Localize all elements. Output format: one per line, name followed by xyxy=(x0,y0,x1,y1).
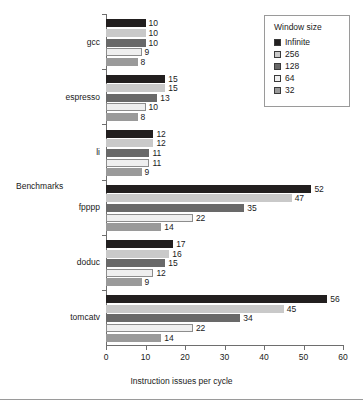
bar-value-label: 14 xyxy=(164,222,173,232)
legend-item[interactable]: Infinite xyxy=(274,36,349,48)
bar-value-label: 9 xyxy=(145,167,150,177)
bar xyxy=(106,204,244,212)
bar xyxy=(106,113,138,121)
bar-value-label: 14 xyxy=(164,333,173,343)
bar-value-label: 22 xyxy=(196,213,205,223)
bar xyxy=(106,259,165,267)
bar xyxy=(106,39,146,47)
category-label: li xyxy=(34,147,100,157)
legend-swatch xyxy=(274,87,281,94)
bar xyxy=(106,168,142,176)
x-axis-tick-label: 30 xyxy=(210,352,240,362)
bar xyxy=(106,48,142,56)
legend-item-label: 128 xyxy=(285,62,299,71)
bar xyxy=(106,295,327,303)
bar xyxy=(106,185,311,193)
x-axis-tick xyxy=(146,346,147,350)
bar-value-label: 10 xyxy=(149,18,158,28)
x-axis-tick-label: 40 xyxy=(249,352,279,362)
bar xyxy=(106,19,146,27)
bar xyxy=(106,94,157,102)
bar xyxy=(106,84,165,92)
bar-value-label: 17 xyxy=(176,239,185,249)
bar-value-label: 12 xyxy=(156,129,165,139)
bar-value-label: 8 xyxy=(141,57,146,67)
bar xyxy=(106,240,173,248)
x-axis-tick xyxy=(185,346,186,350)
legend-items: Infinite2561286432 xyxy=(274,36,349,96)
y-axis-tick xyxy=(102,235,106,236)
bar-value-label: 11 xyxy=(152,158,161,168)
y-axis-tick xyxy=(102,290,106,291)
x-axis-tick xyxy=(304,346,305,350)
bar-value-label: 10 xyxy=(149,102,158,112)
legend-item[interactable]: 256 xyxy=(274,48,349,60)
category-label: espresso xyxy=(34,92,100,102)
legend-swatch xyxy=(274,75,281,82)
y-axis-tick xyxy=(102,14,106,15)
bar xyxy=(106,139,153,147)
legend-item[interactable]: 64 xyxy=(274,72,349,84)
legend: Window size Infinite2561286432 xyxy=(264,15,350,107)
bar-value-label: 45 xyxy=(287,304,296,314)
bar xyxy=(106,214,193,222)
bar xyxy=(106,324,193,332)
bar-value-label: 10 xyxy=(149,38,158,48)
bar xyxy=(106,305,284,313)
bar xyxy=(106,75,165,83)
legend-swatch xyxy=(274,39,281,46)
bar-value-label: 56 xyxy=(330,294,339,304)
bar-value-label: 12 xyxy=(156,138,165,148)
legend-item[interactable]: 32 xyxy=(274,84,349,96)
bar-value-label: 34 xyxy=(243,313,252,323)
legend-item[interactable]: 128 xyxy=(274,60,349,72)
bar xyxy=(106,223,161,231)
y-axis-tick xyxy=(102,69,106,70)
bar-value-label: 52 xyxy=(314,184,323,194)
legend-title: Window size xyxy=(274,22,349,32)
bar-value-label: 12 xyxy=(156,268,165,278)
legend-item-label: 32 xyxy=(285,86,294,95)
bar-value-label: 16 xyxy=(172,249,181,259)
x-axis-tick-label: 10 xyxy=(131,352,161,362)
category-label: gcc xyxy=(34,37,100,47)
x-axis-tick-label: 60 xyxy=(328,352,358,362)
bar-value-label: 15 xyxy=(168,83,177,93)
x-axis-tick-label: 20 xyxy=(170,352,200,362)
bar xyxy=(106,250,169,258)
y-axis-tick xyxy=(102,124,106,125)
bar-value-label: 11 xyxy=(152,148,161,158)
bar xyxy=(106,159,149,167)
bar xyxy=(106,334,161,342)
legend-swatch xyxy=(274,51,281,58)
x-axis-tick xyxy=(343,346,344,350)
legend-item-label: 256 xyxy=(285,50,299,59)
footer-divider xyxy=(0,399,363,400)
bar xyxy=(106,269,153,277)
x-axis-tick xyxy=(264,346,265,350)
category-label: fpppp xyxy=(34,202,100,212)
category-label: doduc xyxy=(34,257,100,267)
x-axis-tick-label: 0 xyxy=(91,352,121,362)
bar-value-label: 47 xyxy=(295,193,304,203)
legend-swatch xyxy=(274,63,281,70)
legend-item-label: 64 xyxy=(285,74,294,83)
bar xyxy=(106,149,149,157)
bar-value-label: 10 xyxy=(149,28,158,38)
y-axis-title: Benchmarks xyxy=(16,181,63,191)
bar-value-label: 22 xyxy=(196,323,205,333)
bar-chart: 0102030405060 gcc10101098espresso1515131… xyxy=(0,0,363,407)
bar xyxy=(106,29,146,37)
x-axis-tick xyxy=(106,346,107,350)
bar-value-label: 13 xyxy=(160,93,169,103)
category-label: tomcatv xyxy=(34,312,100,322)
bar xyxy=(106,58,138,66)
bar-value-label: 15 xyxy=(168,258,177,268)
x-axis-tick-label: 50 xyxy=(289,352,319,362)
bar xyxy=(106,278,142,286)
legend-item-label: Infinite xyxy=(285,38,310,47)
y-axis-tick xyxy=(102,180,106,181)
bar-value-label: 35 xyxy=(247,203,256,213)
bar xyxy=(106,314,240,322)
bar-value-label: 15 xyxy=(168,74,177,84)
